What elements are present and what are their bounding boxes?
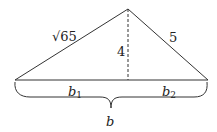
altitude-label: 4 <box>117 44 125 59</box>
right-side <box>128 9 208 80</box>
base-brace <box>15 82 207 108</box>
left-side <box>15 9 128 80</box>
left-side-label: √65 <box>52 29 77 44</box>
base-left-label: b1 <box>68 84 82 100</box>
base-total-label: b <box>106 114 114 129</box>
triangle-diagram: √65 4 5 b1 b2 b <box>0 0 217 132</box>
right-side-label: 5 <box>169 30 177 45</box>
base-right-label: b2 <box>162 84 176 100</box>
